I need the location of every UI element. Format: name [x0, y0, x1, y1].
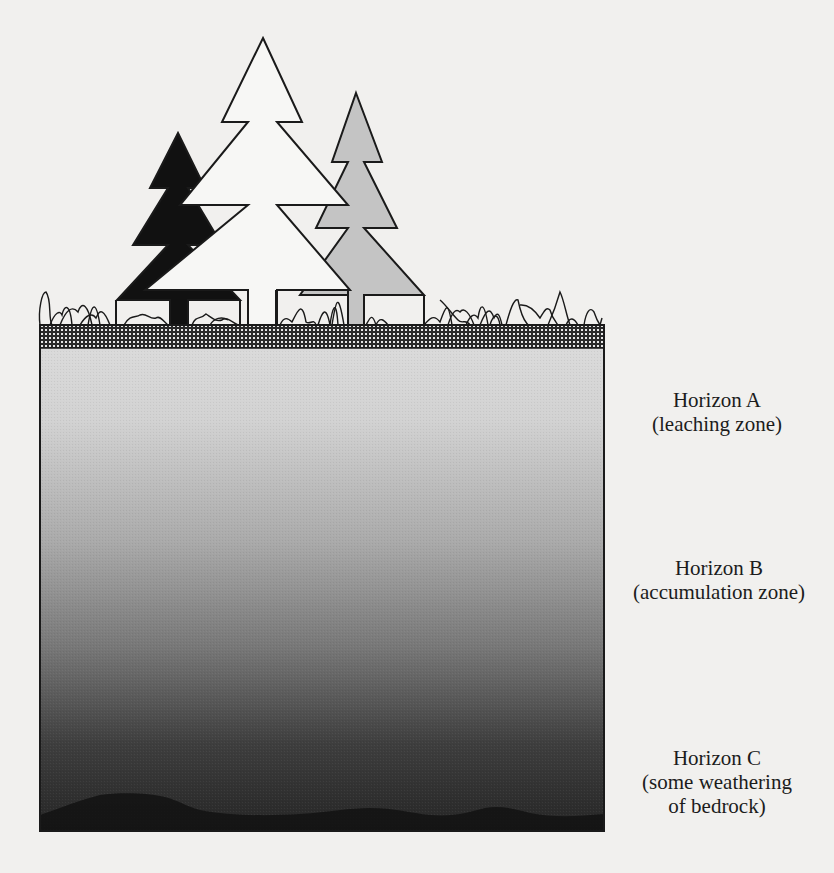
horizon-b-label: Horizon B (accumulation zone): [606, 556, 832, 604]
trees: [116, 38, 424, 325]
horizon-a-title: Horizon A: [612, 388, 822, 412]
soil-profile-figure: [0, 0, 834, 873]
horizon-b-subtitle: (accumulation zone): [606, 580, 832, 604]
soil-profile: [40, 325, 604, 831]
horizon-c-title: Horizon C: [612, 746, 822, 770]
horizon-a-label: Horizon A (leaching zone): [612, 388, 822, 436]
horizon-c-subtitle-line2: of bedrock): [612, 794, 822, 818]
horizon-a-subtitle: (leaching zone): [612, 412, 822, 436]
horizon-c-subtitle-line1: (some weathering: [612, 770, 822, 794]
topsoil-dotted-band: [40, 325, 604, 348]
soil-grain-texture: [40, 348, 604, 831]
horizon-c-label: Horizon C (some weathering of bedrock): [612, 746, 822, 818]
horizon-b-title: Horizon B: [606, 556, 832, 580]
